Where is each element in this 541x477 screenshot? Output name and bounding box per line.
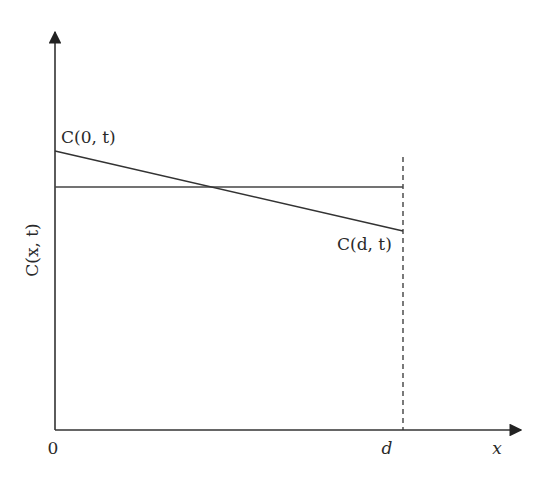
bottom-label: C(d, t) [337, 234, 392, 254]
diagram-canvas: C(0, t) C(d, t) C(x, t) 0 d x [0, 0, 541, 477]
top-label: C(0, t) [61, 127, 116, 147]
origin-label: 0 [48, 438, 59, 458]
d-tick-label: d [382, 438, 393, 458]
y-axis-label: C(x, t) [22, 223, 42, 277]
x-axis-label: x [492, 438, 502, 458]
linear-concentration-profile [55, 151, 403, 231]
